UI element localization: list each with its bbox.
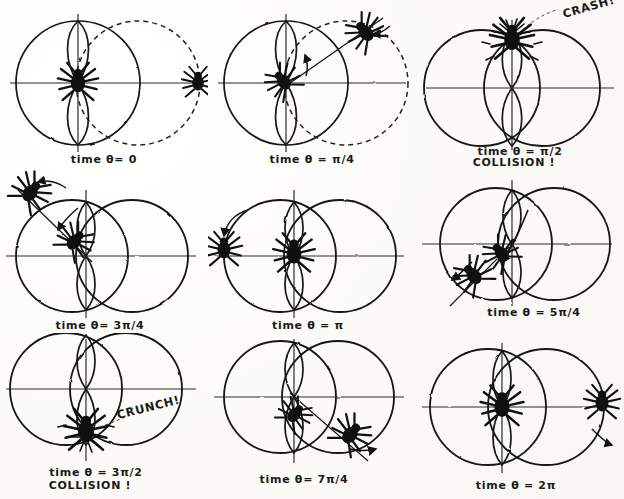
panel-theta-0: time θ= 0 [0, 0, 208, 166]
panel-1-label-line1: time θ = π/4 [270, 153, 355, 166]
panel-3-label-line1: time θ= 3π/4 [56, 319, 145, 332]
panel-3-bug-b [4, 166, 57, 218]
panel-8-figure: time θ = 2π [416, 333, 624, 499]
panel-theta-2pi: time θ = 2π [416, 333, 624, 499]
panel-0-label-line1: time θ= 0 [71, 153, 137, 166]
panel-grid: time θ= 0 [0, 0, 624, 499]
panel-theta-pi-2: CRASH! time θ = π/2 COLLISION ! [416, 0, 624, 166]
panel-6-figure: CRUNCH! time θ = 3π/2 COLLISION ! [0, 333, 208, 499]
panel-4-label-line1: time θ = π [272, 319, 344, 332]
panel-5-figure: time θ = 5π/4 [416, 166, 624, 332]
panel-3-bug-a [50, 217, 99, 266]
panel-1-figure: time θ = π/4 [208, 0, 416, 166]
panel-2-annotation: CRASH! [561, 0, 616, 21]
panel-5-label-line1: time θ = 5π/4 [487, 306, 580, 319]
panel-3-figure: time θ= 3π/4 [0, 166, 208, 332]
panel-7-figure: time θ= 7π/4 [208, 333, 416, 499]
paper-sheet: time θ= 0 [0, 0, 624, 499]
panel-theta-5pi-4: time θ = 5π/4 [416, 166, 624, 332]
panel-4-bug-b [208, 232, 242, 266]
panel-1-bug-a [259, 57, 307, 104]
panel-7-label-line1: time θ= 7π/4 [260, 473, 349, 486]
panel-6-annotation: CRUNCH! [115, 393, 181, 422]
panel-2-label-line2: COLLISION ! [473, 156, 556, 166]
panel-6-label-line1: time θ = 3π/2 [49, 466, 142, 479]
panel-theta-3pi-2: CRUNCH! time θ = 3π/2 COLLISION ! [0, 333, 208, 499]
panel-1-bug-b [339, 7, 390, 58]
panel-0-figure: time θ= 0 [0, 0, 208, 166]
panel-2-figure: CRASH! time θ = π/2 COLLISION ! [416, 0, 624, 166]
panel-theta-7pi-4: time θ= 7π/4 [208, 333, 416, 499]
panel-3-arrow-center-down [58, 208, 78, 230]
panel-5-bug-b [447, 250, 498, 301]
panel-0-bug-b [182, 67, 208, 97]
panel-theta-3pi-4: time θ= 3π/4 [0, 166, 208, 332]
panel-4-figure: time θ = π [208, 166, 416, 332]
panel-6-label-line2: COLLISION ! [49, 479, 132, 492]
panel-theta-pi-4: time θ = π/4 [208, 0, 416, 166]
panel-7-arrow-bug-b [350, 449, 376, 451]
panel-8-label-line1: time θ = 2π [476, 479, 556, 492]
panel-theta-pi: time θ = π [208, 166, 416, 332]
